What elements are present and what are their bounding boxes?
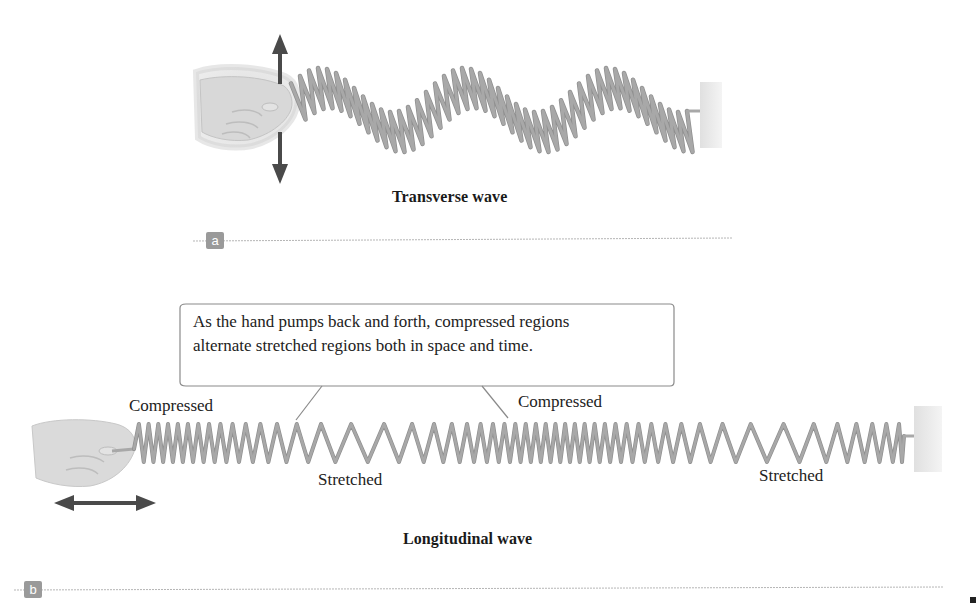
label-compressed-right: Compressed	[518, 392, 602, 412]
longitudinal-caption: Longitudinal wave	[403, 530, 532, 548]
label-stretched-left: Stretched	[318, 470, 382, 490]
transverse-wall	[688, 82, 722, 148]
callout-line-2: alternate stretched regions both in spac…	[193, 334, 569, 358]
left-right-arrow-icon	[54, 495, 156, 511]
panel-b-badge: b	[24, 581, 42, 598]
longitudinal-hand-icon	[32, 420, 135, 487]
callout-line-1: As the hand pumps back and forth, compre…	[193, 310, 569, 334]
label-stretched-right: Stretched	[759, 466, 823, 486]
longitudinal-spring	[134, 424, 904, 462]
transverse-caption: Transverse wave	[392, 188, 507, 206]
label-compressed-left: Compressed	[129, 396, 213, 416]
longitudinal-wall	[904, 406, 942, 472]
panel-a-badge: a	[206, 232, 224, 249]
callout-text: As the hand pumps back and forth, compre…	[193, 310, 569, 358]
panel-a-rule	[193, 238, 732, 241]
panel-b-rule	[14, 587, 944, 590]
transverse-hand-icon	[196, 67, 298, 148]
corner-mark	[970, 597, 976, 603]
diagram-graphics	[0, 0, 976, 603]
transverse-spring	[291, 68, 693, 152]
